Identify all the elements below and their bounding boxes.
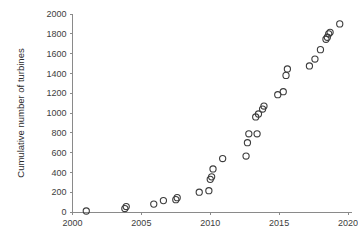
data-point: [151, 201, 157, 207]
y-tick-label: 200: [51, 187, 66, 197]
y-tick-label: 1400: [46, 69, 66, 79]
data-point: [220, 155, 226, 161]
scatter-chart: 0200400600800100012001400160018002000 Cu…: [0, 0, 358, 241]
data-point: [312, 56, 318, 62]
x-tick-label: 2015: [269, 218, 289, 228]
y-axis-title: Cumulative number of turbines: [15, 48, 26, 178]
data-point: [284, 66, 290, 72]
x-tick-label: 2010: [200, 218, 220, 228]
x-tick-label: 2000: [62, 218, 82, 228]
data-point: [196, 189, 202, 195]
data-point-group: [83, 21, 343, 214]
data-point: [243, 153, 249, 159]
x-axis: 20002005201020152020: [62, 212, 358, 228]
y-tick-label: 1600: [46, 49, 66, 59]
data-point: [83, 208, 89, 214]
y-tick-label: 1800: [46, 29, 66, 39]
data-point: [206, 188, 212, 194]
data-point: [123, 203, 129, 209]
data-point: [254, 131, 260, 137]
data-point: [174, 195, 180, 201]
data-point: [337, 21, 343, 27]
x-tick-group: 20002005201020152020: [62, 212, 358, 228]
y-tick-label: 1200: [46, 88, 66, 98]
y-tick-label: 400: [51, 168, 66, 178]
data-point: [306, 63, 312, 69]
y-tick-label: 800: [51, 128, 66, 138]
data-point: [280, 89, 286, 95]
y-tick-group: 0200400600800100012001400160018002000: [46, 9, 72, 217]
x-tick-label: 2020: [338, 218, 358, 228]
data-point: [317, 47, 323, 53]
y-tick-label: 2000: [46, 9, 66, 19]
y-tick-label: 600: [51, 148, 66, 158]
x-tick-label: 2005: [131, 218, 151, 228]
data-point: [246, 131, 252, 137]
data-point: [210, 166, 216, 172]
y-tick-label: 1000: [46, 108, 66, 118]
y-tick-label: 0: [61, 207, 66, 217]
y-axis: 0200400600800100012001400160018002000 Cu…: [15, 9, 73, 217]
data-point: [283, 72, 289, 78]
data-point: [327, 29, 333, 35]
data-point: [160, 198, 166, 204]
chart-canvas: 0200400600800100012001400160018002000 Cu…: [0, 0, 358, 241]
data-point: [244, 140, 250, 146]
